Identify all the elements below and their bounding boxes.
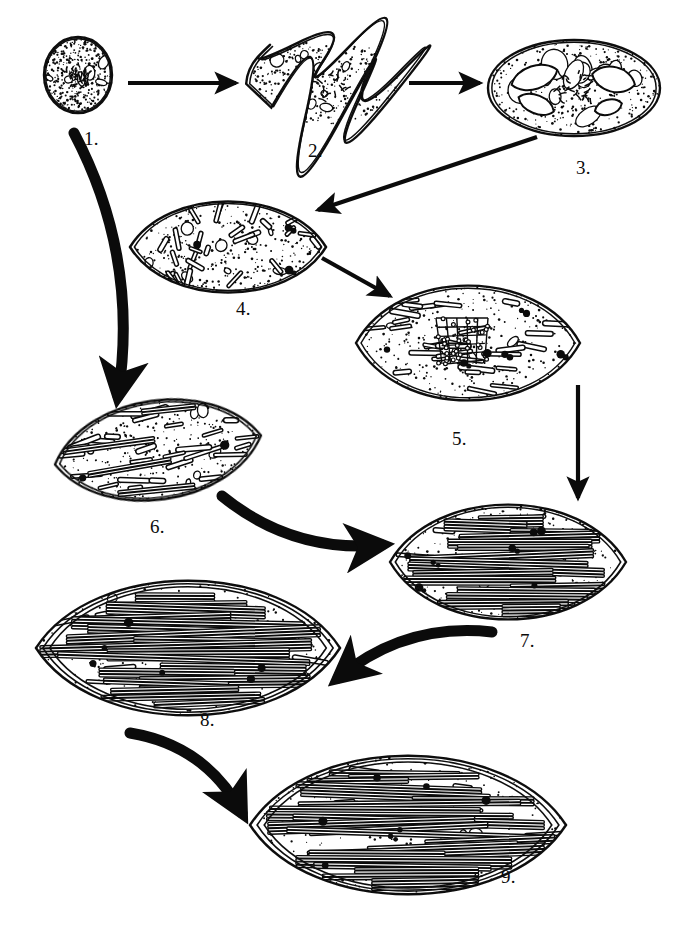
stage-label-7: 7. <box>520 630 535 652</box>
stage-8 <box>36 580 340 717</box>
arrow-3-to-4 <box>318 137 537 210</box>
stage-1 <box>44 37 112 113</box>
stage-label-2: 2. <box>308 140 323 162</box>
stage-label-8: 8. <box>200 709 215 731</box>
arrow-6-to-7 <box>222 496 382 546</box>
stage-label-5: 5. <box>452 428 467 450</box>
stage-6 <box>48 386 268 513</box>
stage-3 <box>488 40 660 136</box>
plastid-development-figure: 1.2.3.4.5.6.7.8.9. <box>0 0 686 934</box>
stage-2 <box>246 18 430 177</box>
arrow-4-to-5 <box>322 258 390 296</box>
stage-label-6: 6. <box>150 516 165 538</box>
plastid-interior <box>40 580 340 717</box>
figure-canvas <box>0 0 686 934</box>
stage-9 <box>250 756 566 896</box>
stage-label-3: 3. <box>576 157 591 179</box>
stage-7 <box>390 505 626 621</box>
stage-4 <box>130 199 326 293</box>
arrow-8-to-9 <box>130 733 242 813</box>
stage-5 <box>356 285 580 400</box>
arrow-1-to-6 <box>74 133 123 396</box>
arrow-7-to-8 <box>338 631 492 678</box>
stroma-fill <box>246 18 430 177</box>
stage-label-1: 1. <box>84 128 99 150</box>
stage-label-4: 4. <box>236 298 251 320</box>
stage-layer <box>36 18 660 896</box>
stage-label-9: 9. <box>501 866 516 888</box>
